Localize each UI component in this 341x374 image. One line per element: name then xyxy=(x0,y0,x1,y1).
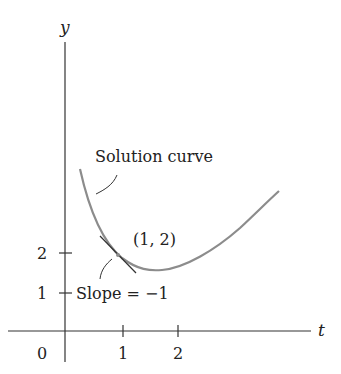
origin-label: 0 xyxy=(37,344,47,363)
point-marker xyxy=(116,253,120,257)
x-tick-label-1: 1 xyxy=(118,344,128,363)
solution-curve xyxy=(80,169,279,270)
y-axis-label: y xyxy=(59,17,70,37)
y-tick-label-2: 2 xyxy=(37,244,47,263)
leader-solution xyxy=(96,175,117,194)
x-tick-label-2: 2 xyxy=(173,344,183,363)
plot-area: y t 0 1 2 2 1 Solution curve (1, 2) Slop… xyxy=(0,0,341,374)
t-axis-label: t xyxy=(318,320,325,340)
leader-slope xyxy=(100,259,112,279)
y-tick-label-1: 1 xyxy=(37,284,47,303)
solution-curve-label: Solution curve xyxy=(95,147,213,166)
point-label: (1, 2) xyxy=(133,230,176,249)
figure: y t 0 1 2 2 1 Solution curve (1, 2) Slop… xyxy=(0,0,341,374)
slope-label: Slope = −1 xyxy=(76,284,169,303)
